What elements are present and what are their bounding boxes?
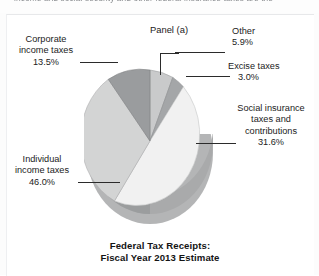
label-other-value: 5.9% (232, 37, 253, 47)
label-corporate: Corporate income taxes 13.5% (8, 34, 84, 68)
panel-title: Panel (a) (133, 24, 205, 35)
label-other-line1: Other (232, 26, 255, 36)
label-social-line1: Social insurance (237, 103, 304, 113)
figure-caption: Federal Tax Receipts: Fiscal Year 2013 E… (60, 240, 260, 265)
label-corporate-line1: Corporate (26, 34, 67, 44)
label-social-line3: contributions (245, 126, 297, 136)
pie-chart-svg (84, 48, 216, 230)
label-individual-line1: Individual (23, 154, 62, 164)
label-individual-value: 46.0% (29, 177, 55, 187)
figure-caption-line2: Fiscal Year 2013 Estimate (60, 252, 260, 264)
label-social: Social insurance taxes and contributions… (229, 103, 313, 149)
label-excise-line1: Excise taxes (228, 61, 280, 71)
label-corporate-value: 13.5% (33, 57, 59, 67)
label-excise-value: 3.0% (238, 72, 259, 83)
pie-chart (84, 48, 216, 230)
label-other: Other 5.9% (232, 26, 292, 49)
label-individual: Individual income taxes 46.0% (4, 154, 80, 188)
figure-caption-line1: Federal Tax Receipts: (110, 240, 211, 251)
label-social-value: 31.6% (258, 137, 284, 147)
label-corporate-line2: income taxes (19, 45, 73, 55)
clipped-body-text: income and social security and other fed… (0, 0, 319, 13)
label-individual-line2: income taxes (15, 165, 69, 175)
clipped-body-text-line: income and social security and other fed… (14, 0, 273, 3)
label-excise: Excise taxes 3.0% (228, 61, 302, 84)
label-social-line2: taxes and (251, 114, 291, 124)
